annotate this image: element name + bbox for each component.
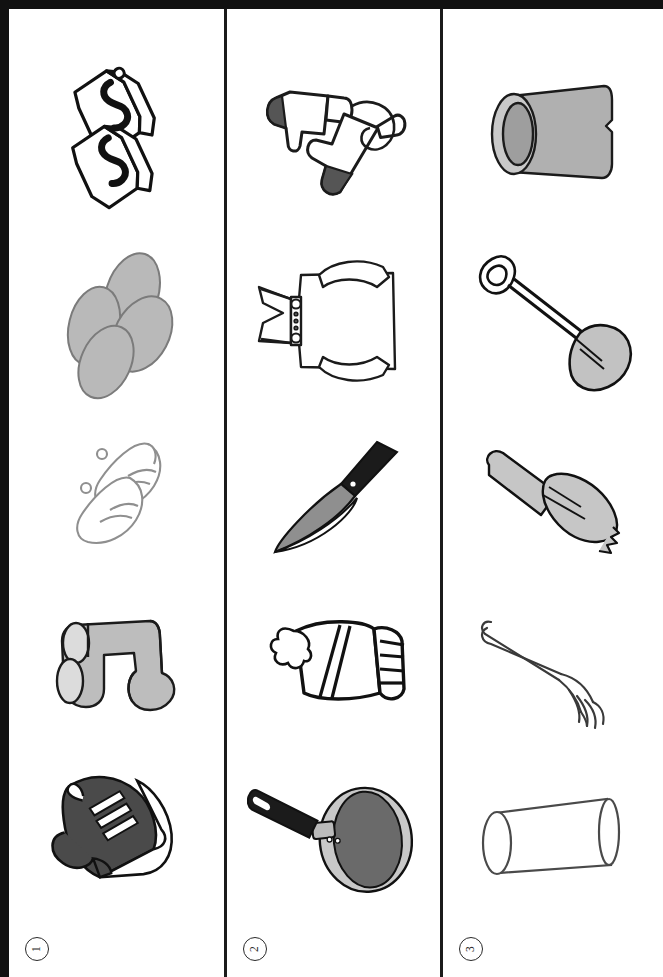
item-flower-pot[interactable] xyxy=(457,47,652,222)
row-number-3: 3 xyxy=(459,937,483,961)
drinking-glass-icon xyxy=(465,771,645,911)
item-flip-flops[interactable] xyxy=(29,54,209,224)
flower-pot-icon xyxy=(470,60,640,210)
item-shirt[interactable] xyxy=(239,237,429,407)
mittens-icon xyxy=(252,62,417,217)
slippers-icon xyxy=(44,242,194,402)
ballet-shoes-icon xyxy=(44,420,194,580)
shovel-icon xyxy=(462,245,647,405)
frying-pan-icon xyxy=(247,759,422,909)
page-border-top xyxy=(0,0,663,9)
item-mittens[interactable] xyxy=(239,54,429,224)
page-border-nub-2 xyxy=(0,80,7,94)
garden-trowel-icon xyxy=(465,437,645,587)
socks-icon xyxy=(42,597,197,742)
fork-icon xyxy=(465,602,645,752)
page-border-nub-3 xyxy=(0,105,7,117)
page-border-left xyxy=(0,0,9,977)
item-winter-hat[interactable] xyxy=(239,589,429,749)
item-socks[interactable] xyxy=(29,589,209,749)
item-kitchen-knife[interactable] xyxy=(239,417,429,582)
item-shovel[interactable] xyxy=(457,237,652,412)
sneakers-icon xyxy=(42,756,197,911)
item-fork[interactable] xyxy=(457,594,652,759)
shirt-icon xyxy=(249,247,419,397)
item-ballet-shoes[interactable] xyxy=(29,417,209,582)
page-border-nub-1 xyxy=(0,40,7,66)
page-border-nub-4 xyxy=(0,132,7,142)
item-slippers[interactable] xyxy=(29,237,209,407)
kitchen-knife-icon xyxy=(249,422,419,577)
worksheet-page: 1 xyxy=(0,0,663,977)
flip-flops-icon xyxy=(44,59,194,219)
row-2-panel: 2 xyxy=(227,9,440,977)
item-sneakers[interactable] xyxy=(29,751,209,916)
item-frying-pan[interactable] xyxy=(239,751,429,916)
row-number-2: 2 xyxy=(243,937,267,961)
row-3-panel: 3 xyxy=(443,9,663,977)
row-number-1: 1 xyxy=(25,937,49,961)
item-garden-trowel[interactable] xyxy=(457,429,652,594)
item-drinking-glass[interactable] xyxy=(457,761,652,921)
row-1-panel: 1 xyxy=(9,9,224,977)
winter-hat-icon xyxy=(254,597,414,742)
